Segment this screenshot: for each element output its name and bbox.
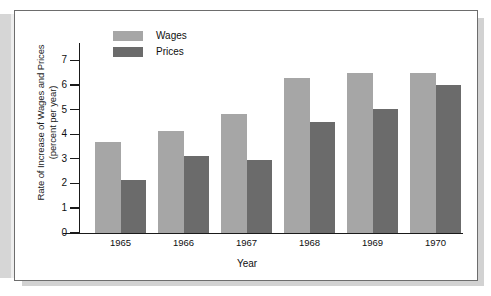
bar-group-1970 xyxy=(410,11,461,233)
y-axis-tick-0 xyxy=(70,232,80,233)
bar-group-1966 xyxy=(158,11,209,233)
y-axis-tick-2 xyxy=(70,183,80,184)
bar-wages-1968 xyxy=(284,78,310,233)
x-axis-title: Year xyxy=(15,258,479,269)
y-axis-tick-label-2: 2 xyxy=(53,178,67,188)
bar-group-1968 xyxy=(284,11,335,233)
x-axis-tick-label-1969: 1969 xyxy=(351,237,395,248)
chart-frame: Rate of Increase of Wages and Prices (pe… xyxy=(14,10,478,281)
bar-groups: 196519661967196819691970 xyxy=(81,11,463,233)
bar-wages-1967 xyxy=(221,114,247,233)
y-axis-tick-label-3: 3 xyxy=(53,154,67,164)
bar-prices-1968 xyxy=(310,122,336,233)
plot-area: Rate of Increase of Wages and Prices (pe… xyxy=(15,11,477,280)
x-axis-tick-label-1965: 1965 xyxy=(99,237,143,248)
x-axis-tick-label-1967: 1967 xyxy=(225,237,269,248)
y-axis-tick-6 xyxy=(70,84,80,85)
y-axis-tick-4 xyxy=(70,134,80,135)
bar-prices-1970 xyxy=(436,85,462,233)
y-axis-tick-label-7: 7 xyxy=(53,55,67,65)
y-axis-tick-3 xyxy=(70,158,80,159)
bar-prices-1967 xyxy=(247,160,273,233)
y-axis-title-line1: Rate of Increase of Wages and Prices xyxy=(35,28,47,218)
bar-prices-1969 xyxy=(373,109,399,233)
bar-group-1965 xyxy=(95,11,146,233)
y-axis-tick-label-5: 5 xyxy=(53,105,67,115)
bar-group-1969 xyxy=(347,11,398,233)
y-axis-tick-label-1: 1 xyxy=(53,203,67,213)
bar-wages-1965 xyxy=(95,142,121,233)
bar-group-1967 xyxy=(221,11,272,233)
page-edge-strip xyxy=(0,14,11,278)
bar-wages-1966 xyxy=(158,131,184,233)
y-axis-tick-5 xyxy=(70,109,80,110)
x-axis-tick-label-1968: 1968 xyxy=(288,237,332,248)
bar-prices-1966 xyxy=(184,156,210,233)
bar-prices-1965 xyxy=(121,180,147,233)
y-axis-tick-label-6: 6 xyxy=(53,80,67,90)
bar-wages-1969 xyxy=(347,73,373,233)
y-axis-tick-label-4: 4 xyxy=(53,129,67,139)
y-axis-tick-7 xyxy=(70,60,80,61)
y-axis-tick-label-0: 0 xyxy=(53,228,67,238)
x-axis-tick-label-1966: 1966 xyxy=(162,237,206,248)
x-axis-tick-label-1970: 1970 xyxy=(414,237,458,248)
y-axis-tick-1 xyxy=(70,207,80,208)
bar-wages-1970 xyxy=(410,73,436,233)
